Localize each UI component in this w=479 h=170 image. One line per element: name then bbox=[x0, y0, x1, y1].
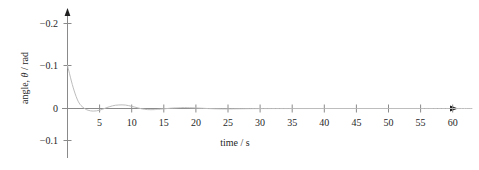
x-axis-title: time / s bbox=[220, 137, 250, 148]
x-tick-label: 35 bbox=[287, 117, 297, 128]
y-tick-label: 0 bbox=[53, 103, 58, 114]
y-axis-title: angle, θ / rad bbox=[19, 52, 30, 104]
angle-series-curve bbox=[68, 66, 472, 112]
y-axis-arrow-icon bbox=[65, 8, 71, 16]
x-tick-label: 5 bbox=[97, 117, 102, 128]
x-tick-label: 60 bbox=[448, 117, 458, 128]
x-tick-label: 50 bbox=[384, 117, 394, 128]
x-tick-label: 45 bbox=[351, 117, 361, 128]
y-tick-label: −0.1 bbox=[40, 60, 58, 71]
y-axis-title-prefix: angle, bbox=[19, 77, 30, 104]
x-tick-label: 10 bbox=[127, 117, 137, 128]
x-tick-label: 15 bbox=[159, 117, 169, 128]
svg-text:angle, θ / rad: angle, θ / rad bbox=[19, 52, 30, 104]
damped-oscillation-plot: −0.2 −0.1 0 −0.1 5 10 15 20 25 30 35 40 … bbox=[0, 0, 479, 170]
x-tick-label: 25 bbox=[223, 117, 233, 128]
x-tick-label: 20 bbox=[191, 117, 201, 128]
chart-figure: −0.2 −0.1 0 −0.1 5 10 15 20 25 30 35 40 … bbox=[0, 0, 479, 170]
x-tick-label: 55 bbox=[416, 117, 426, 128]
y-tick-label: −0.1 bbox=[40, 135, 58, 146]
x-tick-label: 40 bbox=[319, 117, 329, 128]
y-axis-title-unit: / rad bbox=[19, 52, 30, 73]
x-tick-label: 30 bbox=[255, 117, 265, 128]
y-tick-label: −0.2 bbox=[40, 18, 58, 29]
